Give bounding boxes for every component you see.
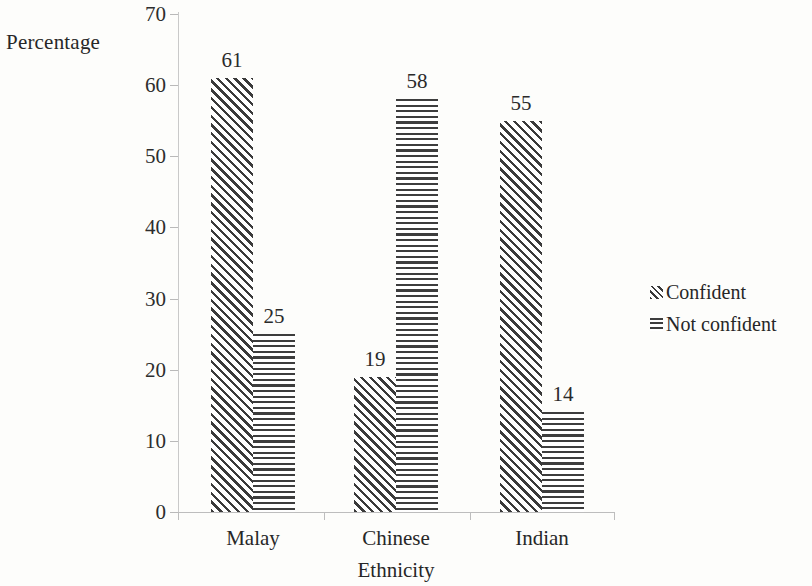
- x-axis-category-label: Malay: [226, 528, 280, 549]
- legend-item-not-confident: Not confident: [650, 308, 810, 340]
- y-axis-tick: [170, 299, 178, 300]
- bar-value-label: 55: [511, 93, 532, 114]
- diagonal-hatch-swatch: [650, 286, 663, 299]
- bar-value-label: 58: [407, 71, 428, 92]
- bar-value-label: 61: [222, 50, 243, 71]
- x-axis-tick: [178, 512, 179, 520]
- y-axis-tick-label: 10: [145, 430, 166, 451]
- x-axis-category-label: Indian: [515, 528, 569, 549]
- x-axis-title: Ethnicity: [358, 560, 435, 581]
- bar-value-label: 14: [553, 384, 574, 405]
- y-axis-tick: [170, 85, 178, 86]
- bar-chinese-not-confident: [396, 99, 438, 512]
- horizontal-lines-swatch: [650, 318, 663, 331]
- bar-indian-not-confident: [542, 412, 584, 512]
- bar-malay-not-confident: [253, 334, 295, 512]
- plot-area: 010203040506070612519585514: [178, 14, 608, 512]
- y-axis-tick: [170, 370, 178, 371]
- x-axis-tick: [470, 512, 471, 520]
- y-axis-title: Percentage: [6, 30, 100, 55]
- legend-item-label: Confident: [666, 282, 746, 302]
- y-axis-tick: [170, 441, 178, 442]
- chart-legend: ConfidentNot confident: [650, 276, 810, 340]
- legend-item-label: Not confident: [666, 314, 777, 334]
- y-axis-tick: [170, 512, 178, 513]
- bar-malay-confident: [211, 78, 253, 512]
- legend-item-confident: Confident: [650, 276, 810, 308]
- bar-value-label: 25: [264, 306, 285, 327]
- y-axis-tick-label: 50: [145, 146, 166, 167]
- x-axis-tick: [324, 512, 325, 520]
- bar-indian-confident: [500, 121, 542, 512]
- bar-value-label: 19: [365, 349, 386, 370]
- y-axis-tick-label: 60: [145, 75, 166, 96]
- y-axis-tick: [170, 14, 178, 15]
- y-axis-tick: [170, 227, 178, 228]
- y-axis-tick-label: 40: [145, 217, 166, 238]
- x-axis-line: [170, 512, 614, 513]
- bar-chinese-confident: [354, 377, 396, 512]
- y-axis-tick-label: 70: [145, 4, 166, 25]
- y-axis-tick-label: 20: [145, 359, 166, 380]
- y-axis-tick-label: 30: [145, 288, 166, 309]
- y-axis-tick-label: 0: [156, 502, 167, 523]
- y-axis-tick: [170, 156, 178, 157]
- x-axis-category-label: Chinese: [362, 528, 430, 549]
- bar-chart: Percentage 010203040506070612519585514 M…: [0, 0, 812, 586]
- x-axis-tick: [614, 512, 615, 520]
